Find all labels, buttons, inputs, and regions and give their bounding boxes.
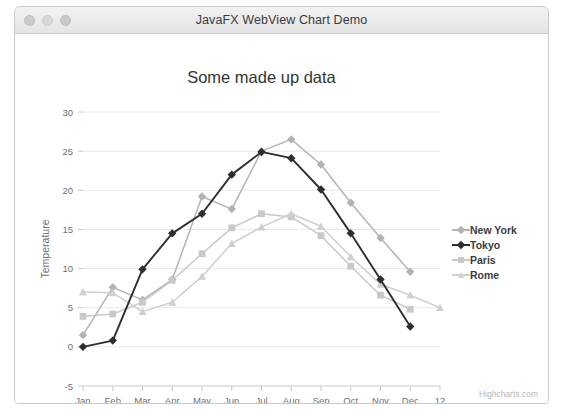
- credits-label: Highcharts.com: [479, 389, 538, 399]
- x-axis-tick-label: Dec: [402, 395, 419, 404]
- chart-legend: New YorkTokyoParisRome: [452, 222, 547, 282]
- y-axis-tick-label: 5: [68, 302, 73, 313]
- series-tokyo: [79, 148, 415, 351]
- x-axis-tick-label: Jul: [255, 395, 267, 404]
- y-axis-tick-label: 10: [62, 263, 73, 274]
- series-new-york: [79, 135, 415, 339]
- y-axis-tick-label: 25: [62, 146, 73, 157]
- legend-item-rome[interactable]: Rome: [452, 267, 547, 282]
- y-axis-tick-label: -5: [65, 381, 73, 392]
- legend-label: Rome: [470, 269, 499, 281]
- x-axis-tick-label: Feb: [105, 395, 121, 404]
- legend-marker-diamond-icon: [452, 224, 470, 236]
- x-axis-tick-label: Sep: [313, 395, 330, 404]
- x-axis-tick-label: Oct: [343, 395, 358, 404]
- y-axis-tick-label: 0: [68, 341, 73, 352]
- x-axis-tick-label: Nov: [372, 395, 389, 404]
- legend-marker-triangle-icon: [452, 269, 470, 281]
- legend-label: Paris: [470, 254, 496, 266]
- chart-container: Some made up data -5051015202530JanFebMa…: [15, 34, 548, 404]
- x-axis-tick-label: Jun: [224, 395, 239, 404]
- x-axis-tick-label: 12: [435, 395, 446, 404]
- window-titlebar: JavaFX WebView Chart Demo: [15, 7, 548, 34]
- legend-item-paris[interactable]: Paris: [452, 252, 547, 267]
- chart-plot: -5051015202530JanFebMarAprMayJunJulAugSe…: [15, 34, 549, 404]
- legend-label: New York: [470, 224, 517, 236]
- legend-marker-square-icon: [452, 254, 470, 266]
- y-axis-tick-label: 20: [62, 185, 73, 196]
- y-axis-tick-label: 30: [62, 107, 73, 118]
- x-axis-tick-label: May: [193, 395, 211, 404]
- x-axis-tick-label: Mar: [134, 395, 150, 404]
- y-axis-tick-label: 15: [62, 224, 73, 235]
- legend-item-new-york[interactable]: New York: [452, 222, 547, 237]
- x-axis-tick-label: Aug: [283, 395, 300, 404]
- legend-marker-diamond-icon: [452, 239, 470, 251]
- legend-label: Tokyo: [470, 239, 500, 251]
- y-axis-title: Temperature: [39, 219, 51, 278]
- x-axis-tick-label: Jan: [75, 395, 90, 404]
- legend-item-tokyo[interactable]: Tokyo: [452, 237, 547, 252]
- window-title: JavaFX WebView Chart Demo: [15, 7, 548, 33]
- x-axis-tick-label: Apr: [165, 395, 180, 404]
- app-window: JavaFX WebView Chart Demo Some made up d…: [14, 6, 549, 404]
